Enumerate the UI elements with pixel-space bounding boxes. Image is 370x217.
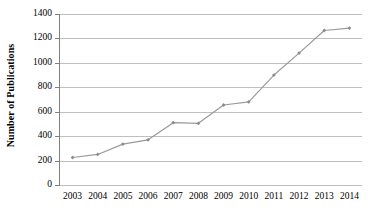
x-tick-label: 2014 bbox=[332, 192, 366, 202]
y-tick-label: 1400 bbox=[12, 9, 52, 19]
y-tick-mark bbox=[55, 87, 59, 88]
data-line bbox=[73, 28, 350, 157]
y-tick-mark bbox=[55, 112, 59, 113]
gridline bbox=[60, 185, 362, 186]
y-tick-mark bbox=[55, 63, 59, 64]
publications-line-chart: Number of Publications 02004006008001000… bbox=[0, 0, 370, 217]
y-tick-label: 1000 bbox=[12, 58, 52, 68]
y-tick-label: 1200 bbox=[12, 33, 52, 43]
y-tick-label: 400 bbox=[12, 131, 52, 141]
y-tick-mark bbox=[55, 38, 59, 39]
y-tick-mark bbox=[55, 14, 59, 15]
y-tick-mark bbox=[55, 185, 59, 186]
y-tick-mark bbox=[55, 161, 59, 162]
data-series-svg bbox=[60, 14, 362, 185]
y-tick-label: 600 bbox=[12, 107, 52, 117]
data-point-marker bbox=[96, 153, 100, 157]
y-tick-label: 200 bbox=[12, 156, 52, 166]
y-tick-label: 800 bbox=[12, 82, 52, 92]
data-markers bbox=[71, 26, 352, 159]
data-point-marker bbox=[121, 142, 125, 146]
y-tick-label: 0 bbox=[12, 180, 52, 190]
data-point-marker bbox=[71, 156, 75, 160]
y-tick-mark bbox=[55, 136, 59, 137]
plot-area bbox=[60, 14, 362, 185]
data-point-marker bbox=[348, 26, 352, 30]
